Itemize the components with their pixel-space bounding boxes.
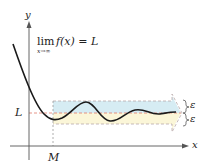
x-axis-label: x: [192, 140, 198, 150]
x-axis-arrow-icon: [182, 144, 189, 149]
lim-text: lim: [37, 36, 54, 47]
epsilon-lower-label: ε: [190, 114, 195, 124]
brace-upper-icon: [183, 100, 189, 113]
lim-expression: f(x) = L: [56, 36, 98, 47]
y-axis-label: y: [25, 10, 31, 20]
epsilon-upper-label: ε: [190, 100, 195, 110]
L-label: L: [15, 107, 22, 118]
brace-lower-icon: [183, 113, 189, 126]
diagram-canvas: [0, 0, 206, 168]
lim-subscript: x→∞: [37, 48, 50, 54]
M-label: M: [48, 152, 59, 163]
limit-diagram: y x L M ε ε lim x→∞ f(x) = L: [0, 0, 206, 168]
lower-band: [53, 113, 181, 130]
y-axis-arrow-icon: [27, 21, 32, 28]
